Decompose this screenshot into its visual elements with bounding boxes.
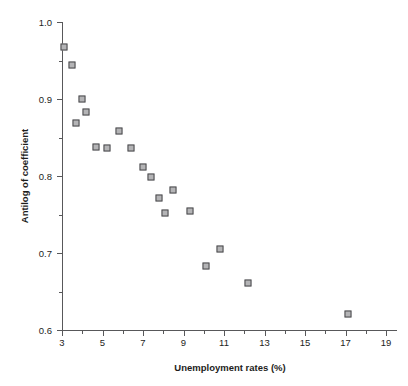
y-tick-minor [59,215,62,216]
x-tick-label: 11 [219,337,229,348]
x-tick-major [184,331,185,336]
x-tick-minor [163,331,164,334]
x-tick-minor [123,331,124,334]
x-tick-label: 17 [340,337,351,348]
data-point [162,209,169,216]
x-axis-line [62,330,397,331]
x-tick-label: 15 [300,337,311,348]
y-tick-label: 0.8 [39,171,52,182]
data-point [69,62,76,69]
x-tick-minor [285,331,286,334]
y-tick-minor [59,292,62,293]
x-tick-major [346,331,347,336]
data-point [140,163,147,170]
y-tick-label: 1.0 [39,17,52,28]
scatter-plot: 357911131517190.60.70.80.91.0 Unemployme… [0,0,408,386]
y-tick-major [57,99,62,100]
x-tick-label: 5 [100,337,105,348]
data-point [79,96,86,103]
data-point [186,208,193,215]
x-tick-major [386,331,387,336]
x-tick-minor [204,331,205,334]
data-point [61,44,68,51]
data-point [344,310,351,317]
x-tick-major [143,331,144,336]
y-tick-major [57,176,62,177]
data-point [73,119,80,126]
x-tick-label: 13 [259,337,270,348]
y-tick-major [57,330,62,331]
y-tick-label: 0.6 [39,325,52,336]
data-point [83,109,90,116]
data-point [156,195,163,202]
data-point [148,173,155,180]
y-tick-minor [59,138,62,139]
x-tick-label: 19 [381,337,392,348]
y-axis-title: Antilog of coefficient [19,129,30,223]
x-tick-major [62,331,63,336]
data-point [127,145,134,152]
y-tick-major [57,253,62,254]
x-tick-label: 7 [140,337,145,348]
y-tick-major [57,22,62,23]
x-tick-minor [82,331,83,334]
x-tick-major [265,331,266,336]
data-point [202,263,209,270]
y-tick-label: 0.7 [39,248,52,259]
x-tick-major [224,331,225,336]
x-tick-major [305,331,306,336]
data-point [103,145,110,152]
data-point [216,246,223,253]
x-tick-label: 3 [59,337,64,348]
x-tick-major [103,331,104,336]
x-tick-minor [244,331,245,334]
y-tick-minor [59,61,62,62]
data-point [93,143,100,150]
data-point [170,186,177,193]
x-axis-title: Unemployment rates (%) [174,362,285,373]
y-tick-label: 0.9 [39,94,52,105]
x-tick-label: 9 [181,337,186,348]
y-axis-line [62,22,63,330]
data-point [245,280,252,287]
data-point [115,127,122,134]
x-tick-minor [325,331,326,334]
x-tick-minor [366,331,367,334]
